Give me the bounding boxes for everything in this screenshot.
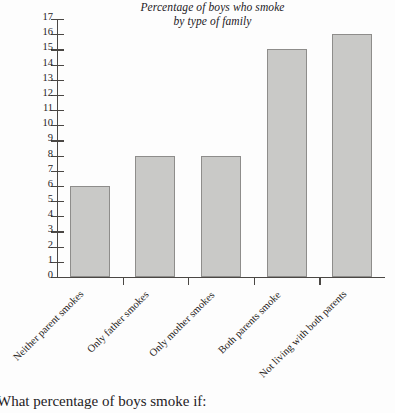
y-axis-tick-label: 9 bbox=[48, 132, 53, 143]
bar bbox=[201, 156, 241, 277]
y-axis-tick-label: 1 bbox=[48, 254, 53, 265]
y-axis-tick-label: 0 bbox=[48, 269, 53, 280]
y-axis-tick-label: 6 bbox=[48, 178, 53, 189]
y-axis-tick-label: 4 bbox=[48, 208, 53, 219]
y-axis-tick-label: 5 bbox=[48, 193, 53, 204]
bar bbox=[135, 156, 175, 277]
y-axis-tick-label: 12 bbox=[43, 87, 54, 98]
y-axis-tick-label: 8 bbox=[48, 148, 53, 159]
plot-area: 01234567891011121314151617 bbox=[57, 19, 385, 277]
x-axis-tick-mark bbox=[254, 277, 255, 285]
x-axis-tick-mark bbox=[123, 277, 124, 285]
chart-title-line-1: Percentage of boys who smoke bbox=[120, 1, 305, 15]
y-axis-tick-label: 2 bbox=[48, 239, 53, 250]
y-axis-tick-label: 16 bbox=[43, 26, 54, 37]
bar bbox=[332, 34, 372, 277]
y-axis-tick-label: 15 bbox=[43, 41, 54, 52]
bar bbox=[267, 49, 307, 277]
y-axis-tick-label: 3 bbox=[48, 223, 53, 234]
caption-text: What percentage of boys smoke if: bbox=[0, 392, 207, 410]
bar-chart-figure: Percentage of boys who smoke by type of … bbox=[0, 0, 395, 413]
y-axis-tick-label: 7 bbox=[48, 163, 53, 174]
bar bbox=[70, 186, 110, 277]
x-axis-line bbox=[57, 277, 385, 278]
x-axis-category-label: Neither parent smokes bbox=[11, 289, 86, 364]
x-axis-category-label: Only mother smokes bbox=[147, 289, 217, 359]
x-axis-category-label: Only father smokes bbox=[85, 289, 151, 355]
y-axis-tick-label: 10 bbox=[43, 117, 54, 128]
y-axis-tick-label: 11 bbox=[43, 102, 53, 113]
x-axis-category-label: Both parents smoke bbox=[216, 289, 283, 356]
x-axis-tick-mark bbox=[319, 277, 320, 285]
x-axis-tick-mark bbox=[188, 277, 189, 285]
y-axis-tick-label: 13 bbox=[43, 72, 54, 83]
y-axis-tick-label: 14 bbox=[43, 57, 54, 68]
y-axis-tick-label: 17 bbox=[43, 11, 54, 22]
